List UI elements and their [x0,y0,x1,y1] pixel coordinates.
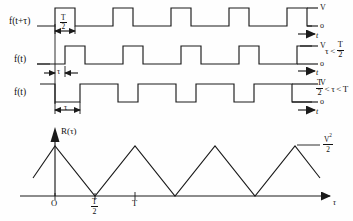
chart-xtick-label-T-half: T 2 [91,199,98,217]
chart-x-axis-label: τ [333,199,336,207]
figure-canvas [0,0,353,221]
condition-operator: < [330,47,335,56]
waveform-row-2 [37,46,312,64]
chart-y-axis-label: R(τ) [61,127,77,136]
condition-expression: τ < T 2 [325,42,344,61]
fraction-numerator: V2 [323,135,333,145]
signal-label-row-3: f(t) [14,88,26,98]
condition-operator-1: < [325,85,330,94]
waveform-row-3 [40,84,312,102]
condition-middle: τ [331,85,335,94]
waveform-row-1 [37,8,312,26]
peak-numerator-exponent: 2 [329,132,332,138]
condition-row-3: T 2 < τ < T [316,79,348,99]
fraction-denominator: 2 [337,51,343,60]
fraction-T-over-2-xtick: T 2 [91,198,98,216]
fraction-T-over-2-condition-row-2: T 2 [337,41,344,60]
fraction-denominator: 2 [91,207,97,215]
fraction-denominator: 2 [60,23,66,31]
dimension-label-row-2: τ [57,68,60,76]
condition-row-2: τ < T 2 [325,42,344,61]
level-label-O-row-3: o [320,98,324,106]
chart-peak-level-label: V2 2 [323,136,333,154]
level-label-V-row-1: V [320,4,326,12]
axis-label-t-row-3: t [316,108,318,116]
dimension-label-row-3: τ [64,104,67,112]
axis-label-t-row-2: t [316,69,318,77]
fraction-denominator: 2 [325,145,331,153]
chart-xtick-label-origin: O [51,199,57,208]
fraction-T-over-2-condition-row-3: T 2 [316,79,323,98]
condition-rhs: T [343,85,349,94]
fraction-T-over-2-row-1: T 2 [60,14,67,31]
condition-lhs: τ [325,47,329,56]
signal-label-row-1: f(t+τ) [9,17,30,27]
chart-xtick-label-T: T [132,199,137,208]
autocorrelation-figure: f(t+τ) V o t T 2 f(t) V o t τ τ < T 2 f(… [0,0,353,221]
chart-y-axis-arrowhead [51,127,60,142]
condition-operator-2: < [336,85,341,94]
dimension-label-row-1: T 2 [60,15,67,32]
fraction-denominator: 2 [316,89,322,98]
fraction-V-squared-over-2: V2 2 [323,135,333,153]
axis-label-t-row-1: t [316,32,318,40]
condition-expression: T 2 < τ < T [316,80,348,99]
level-label-O-row-2: o [320,60,324,68]
fraction-numerator: T [91,198,98,207]
chart-autocorrelation-trace [33,146,320,196]
signal-label-row-2: f(t) [14,55,26,65]
level-label-O-row-1: o [320,22,324,30]
